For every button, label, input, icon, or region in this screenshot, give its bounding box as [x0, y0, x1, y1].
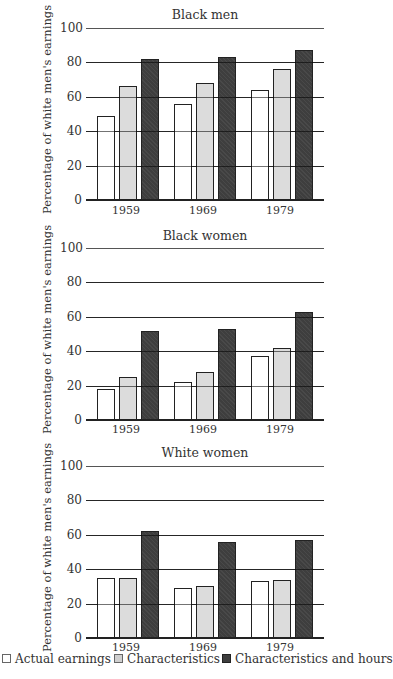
- bar-characteristics-and-hours-1969: [218, 542, 236, 638]
- x-tick-label: 1979: [250, 423, 310, 436]
- bar-characteristics-1959: [119, 377, 137, 420]
- bar-characteristics-1969: [196, 586, 214, 638]
- y-tick-label: 60: [60, 91, 82, 103]
- y-tick-label: 80: [60, 276, 82, 288]
- y-tick-label: 0: [60, 632, 82, 644]
- legend: Actual earnings Characteristics Characte…: [2, 652, 363, 670]
- bar-actual-earnings-1959: [97, 578, 115, 638]
- gridline: [86, 500, 324, 501]
- bar-characteristics-1969: [196, 372, 214, 420]
- bar-actual-earnings-1979: [251, 356, 269, 420]
- gridline: [86, 466, 324, 467]
- bar-characteristics-and-hours-1979: [295, 312, 313, 420]
- bar-characteristics-1979: [273, 69, 291, 200]
- y-axis-label: Percentage of white men's earnings: [40, 14, 54, 214]
- y-tick-label: 0: [60, 194, 82, 206]
- y-axis-label: Percentage of white men's earnings: [40, 234, 54, 434]
- legend-swatch-light-gray: [114, 654, 123, 663]
- legend-swatch-white: [2, 654, 11, 663]
- gridline: [86, 317, 324, 318]
- bar-actual-earnings-1969: [174, 104, 192, 200]
- y-tick-label: 100: [60, 22, 82, 34]
- y-tick-label: 60: [60, 529, 82, 541]
- gridline: [86, 62, 324, 63]
- bar-characteristics-1979: [273, 580, 291, 638]
- bar-characteristics-1959: [119, 86, 137, 200]
- legend-item-characteristics-and-hours: Characteristics and hours: [222, 652, 393, 666]
- bar-characteristics-and-hours-1979: [295, 50, 313, 200]
- bar-characteristics-1969: [196, 83, 214, 200]
- bar-actual-earnings-1969: [174, 588, 192, 638]
- y-tick-label: 60: [60, 311, 82, 323]
- gridline: [86, 569, 324, 570]
- legend-item-actual-earnings: Actual earnings: [2, 652, 111, 666]
- bar-characteristics-and-hours-1969: [218, 329, 236, 420]
- x-tick-label: 1959: [96, 204, 156, 217]
- bar-actual-earnings-1979: [251, 581, 269, 638]
- bar-characteristics-1959: [119, 578, 137, 638]
- bar-characteristics-and-hours-1959: [141, 331, 159, 420]
- bar-actual-earnings-1959: [97, 389, 115, 420]
- gridline: [86, 535, 324, 536]
- x-tick-label: 1969: [173, 423, 233, 436]
- bar-characteristics-and-hours-1959: [141, 531, 159, 638]
- chart-title: Black women: [86, 228, 324, 243]
- y-tick-label: 40: [60, 125, 82, 137]
- bar-characteristics-and-hours-1959: [141, 59, 159, 200]
- y-tick-label: 100: [60, 460, 82, 472]
- gridline: [86, 282, 324, 283]
- x-tick-label: 1959: [96, 423, 156, 436]
- y-tick-label: 100: [60, 242, 82, 254]
- bar-characteristics-and-hours-1969: [218, 57, 236, 200]
- y-tick-label: 40: [60, 345, 82, 357]
- y-tick-label: 80: [60, 494, 82, 506]
- y-tick-label: 20: [60, 160, 82, 172]
- bar-actual-earnings-1959: [97, 116, 115, 200]
- chart-title: Black men: [86, 7, 324, 22]
- chart-title: White women: [86, 445, 324, 460]
- bar-actual-earnings-1969: [174, 382, 192, 420]
- bar-characteristics-1979: [273, 348, 291, 420]
- legend-swatch-dark-gray: [222, 654, 231, 663]
- legend-label: Characteristics and hours: [235, 652, 393, 666]
- gridline: [86, 248, 324, 249]
- y-tick-label: 0: [60, 414, 82, 426]
- legend-item-characteristics: Characteristics: [114, 652, 220, 666]
- y-tick-label: 40: [60, 563, 82, 575]
- gridline: [86, 28, 324, 29]
- x-tick-label: 1979: [250, 204, 310, 217]
- y-tick-label: 20: [60, 598, 82, 610]
- y-axis-label: Percentage of white men's earnings: [40, 452, 54, 652]
- y-tick-label: 20: [60, 380, 82, 392]
- bar-characteristics-and-hours-1979: [295, 540, 313, 638]
- x-tick-label: 1969: [173, 204, 233, 217]
- legend-label: Characteristics: [127, 652, 220, 666]
- legend-label: Actual earnings: [15, 652, 111, 666]
- y-tick-label: 80: [60, 56, 82, 68]
- bar-actual-earnings-1979: [251, 90, 269, 200]
